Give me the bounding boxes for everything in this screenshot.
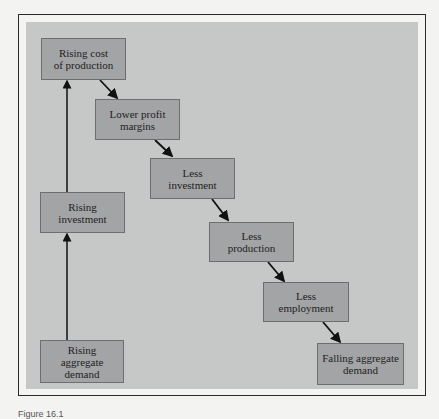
node-rising-demand: Risingaggregatedemand [40,340,124,383]
node-label: Falling aggregatedemand [322,352,399,376]
node-label: Risinginvestment [58,201,106,225]
node-less-employment: Lessemployment [263,282,349,322]
node-lower-profit: Lower profitmargins [95,99,180,140]
node-falling-demand: Falling aggregatedemand [317,343,404,385]
node-less-production: Lessproduction [209,222,294,262]
node-rising-investment: Risinginvestment [40,192,125,233]
node-label: Risingaggregatedemand [61,344,104,380]
node-label: Rising costof production [54,47,114,71]
node-label: Lessproduction [228,230,276,254]
node-less-investment: Lessinvestment [150,158,235,199]
node-rising-cost: Rising costof production [41,38,126,80]
figure-caption: Figure 16.1 [18,409,64,419]
node-label: Lower profitmargins [110,108,166,132]
node-label: Lessinvestment [168,167,216,191]
node-label: Lessemployment [279,290,334,314]
